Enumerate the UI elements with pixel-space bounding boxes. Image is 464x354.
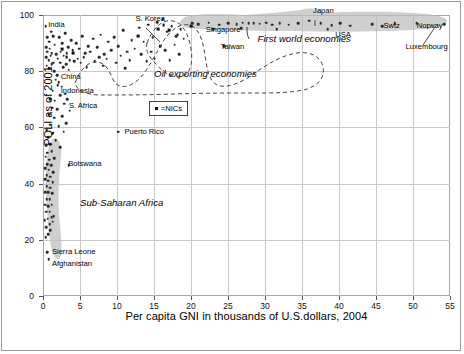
x-tick xyxy=(43,296,44,300)
nics-marker-icon xyxy=(155,107,158,110)
data-point xyxy=(117,45,120,48)
data-point xyxy=(287,24,290,27)
data-point xyxy=(276,28,279,31)
data-point xyxy=(47,233,50,236)
data-point xyxy=(65,52,68,55)
x-axis-label: Per capita GNI in thousands of U.S.dolla… xyxy=(43,310,450,322)
data-point xyxy=(45,226,48,229)
annotation-label: Japan xyxy=(313,7,334,15)
data-point xyxy=(62,130,65,133)
data-point xyxy=(57,84,60,87)
y-tick xyxy=(39,240,43,241)
data-point xyxy=(327,28,330,31)
data-point xyxy=(259,22,262,25)
data-point xyxy=(46,251,49,254)
legend-nics[interactable]: =NICs xyxy=(149,101,188,116)
y-tick-label: 0 xyxy=(29,291,34,301)
data-point xyxy=(330,24,333,27)
data-point xyxy=(319,22,322,25)
data-point xyxy=(58,36,61,39)
data-point xyxy=(44,236,47,239)
data-point xyxy=(164,49,167,52)
data-point xyxy=(52,215,55,218)
data-point xyxy=(167,29,170,32)
data-point xyxy=(62,66,65,69)
data-point xyxy=(61,42,64,45)
data-point xyxy=(140,53,143,56)
annotation-label: Afghanistan xyxy=(52,260,92,268)
data-point xyxy=(113,36,116,39)
data-point xyxy=(68,59,71,62)
data-point xyxy=(57,57,60,60)
data-point xyxy=(178,53,181,56)
annotation-label: Taiwan xyxy=(221,43,245,51)
x-tick xyxy=(339,296,340,300)
data-point xyxy=(51,220,54,223)
gridline-vertical xyxy=(265,15,266,296)
gridline-vertical xyxy=(376,15,377,296)
data-point xyxy=(92,38,95,41)
x-tick xyxy=(154,296,155,300)
data-point xyxy=(182,38,185,41)
chart-figure: IndiaS. KoreaJapanSingaporeUSASwtzNorway… xyxy=(0,0,464,354)
data-point xyxy=(128,59,131,62)
data-point xyxy=(82,56,85,59)
annotation-label: China xyxy=(61,73,81,81)
annotation-label: Botswana xyxy=(68,160,101,168)
gridline-horizontal xyxy=(43,184,450,185)
region-label: Oil exporting economies xyxy=(154,69,257,79)
data-point xyxy=(59,61,62,64)
data-point xyxy=(162,23,165,26)
y-tick-label: 60 xyxy=(25,122,34,132)
data-point xyxy=(265,22,268,25)
data-point xyxy=(150,50,153,53)
data-point xyxy=(371,23,374,26)
data-point xyxy=(48,210,51,213)
data-point xyxy=(119,54,122,57)
gridline-horizontal xyxy=(43,240,450,241)
data-point xyxy=(64,32,67,35)
data-point xyxy=(75,42,78,45)
data-point xyxy=(142,40,145,43)
data-point xyxy=(168,59,171,62)
data-point xyxy=(96,46,99,49)
data-point xyxy=(151,36,154,39)
data-point xyxy=(73,60,76,63)
y-tick-label: 80 xyxy=(25,66,34,76)
data-point xyxy=(145,60,148,63)
gridline-vertical xyxy=(191,15,192,296)
region-label: Sub-Saharan Africa xyxy=(80,198,163,208)
data-point xyxy=(197,23,200,26)
data-point xyxy=(47,205,50,208)
data-point xyxy=(56,74,59,77)
annotation-label: Indonesia xyxy=(61,87,94,95)
x-tick xyxy=(450,296,451,300)
data-point xyxy=(72,52,75,55)
x-tick xyxy=(376,296,377,300)
data-point xyxy=(85,66,88,69)
data-point xyxy=(138,26,141,29)
region-label: First world economies xyxy=(258,34,351,44)
data-point xyxy=(54,139,57,142)
data-point xyxy=(173,43,176,46)
data-point xyxy=(54,78,57,81)
x-tick xyxy=(413,296,414,300)
data-point xyxy=(59,146,62,149)
data-point xyxy=(157,28,160,31)
data-point xyxy=(179,28,182,31)
data-point xyxy=(65,63,68,66)
annotation-label: Singapore xyxy=(206,26,241,34)
data-point xyxy=(81,35,84,38)
data-point xyxy=(124,67,127,70)
data-point xyxy=(99,33,102,36)
data-point xyxy=(68,68,71,71)
y-axis-label: PQLI as of 2001 xyxy=(42,11,54,201)
data-point xyxy=(279,22,282,25)
data-point xyxy=(61,115,64,118)
data-point xyxy=(102,64,105,67)
gridline-vertical xyxy=(228,15,229,296)
gridline-horizontal xyxy=(43,127,450,128)
data-point xyxy=(48,223,51,226)
annotation-label: S. Africa xyxy=(69,102,97,110)
y-tick xyxy=(39,296,43,297)
